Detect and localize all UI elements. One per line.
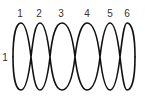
- loop-strands: [13, 23, 135, 90]
- side-label: 1: [2, 52, 8, 63]
- top-label-1: 1: [17, 8, 23, 19]
- top-label-2: 2: [36, 8, 42, 19]
- top-label-4: 4: [84, 8, 90, 19]
- top-label-5: 5: [107, 8, 113, 19]
- top-label-3: 3: [58, 8, 64, 19]
- loop-chain-diagram: 1 2 3 4 5 6 1: [0, 0, 145, 103]
- top-labels: 1 2 3 4 5 6: [17, 8, 130, 19]
- strand-lower: [13, 57, 135, 90]
- top-label-6: 6: [124, 8, 130, 19]
- strand-upper: [13, 23, 135, 57]
